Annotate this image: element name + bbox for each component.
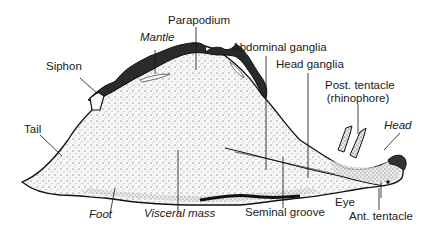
- label-abdominal-ganglia: Abdominal ganglia: [232, 41, 327, 54]
- label-eye: Eye: [335, 196, 355, 209]
- label-head-ganglia: Head ganglia: [276, 58, 344, 71]
- label-post-tentacle: Post. tentacle (rhinophore): [325, 79, 391, 105]
- label-tail: Tail: [24, 123, 41, 136]
- label-post-tentacle-line1: Post. tentacle: [325, 79, 395, 91]
- label-siphon: Siphon: [46, 60, 82, 73]
- aplysia-anatomy-diagram: [0, 0, 430, 233]
- label-seminal-groove: Seminal groove: [245, 206, 325, 219]
- label-visceral-mass: Visceral mass: [144, 207, 215, 220]
- label-foot: Foot: [89, 208, 112, 221]
- eye-dot: [386, 180, 390, 184]
- label-mantle: Mantle: [140, 31, 175, 44]
- label-parapodium: Parapodium: [168, 14, 230, 27]
- label-post-tentacle-line2: (rhinophore): [327, 92, 390, 104]
- label-head: Head: [384, 119, 412, 132]
- rhinophore-left: [338, 126, 352, 152]
- label-ant-tentacle: Ant. tentacle: [349, 210, 413, 223]
